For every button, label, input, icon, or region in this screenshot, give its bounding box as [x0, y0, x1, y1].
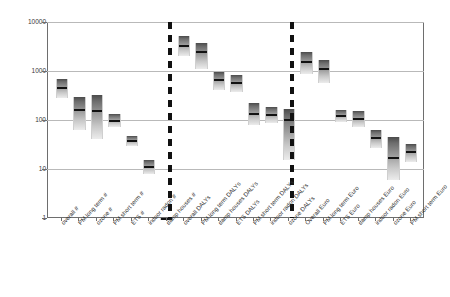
median-line	[109, 120, 119, 122]
median-line	[336, 115, 346, 117]
y-tick-label-10: 10	[0, 166, 46, 173]
median-line	[301, 61, 311, 63]
y-tick-label-1: 1	[0, 215, 46, 222]
y-tick-10	[42, 169, 47, 170]
bar-pm-long-term-	[73, 97, 85, 131]
bar-ets-dalys	[230, 75, 242, 91]
bar-indoor-radon-	[143, 160, 155, 173]
gridline-100	[47, 120, 424, 121]
x-tick	[253, 217, 254, 221]
x-tick	[393, 217, 394, 221]
median-line	[196, 51, 206, 53]
bar-overall-euro	[300, 52, 312, 74]
x-tick	[96, 217, 97, 221]
y-tick-label-10000: 10000	[0, 19, 46, 26]
y-tick-label-1000: 1000	[0, 68, 46, 75]
x-tick	[148, 217, 149, 221]
bar-pm-short-term-euro	[405, 144, 417, 162]
median-line	[406, 151, 416, 153]
gridline-10000	[47, 22, 424, 23]
plot-area	[47, 22, 424, 218]
gridline-10	[47, 169, 424, 170]
x-tick	[113, 217, 114, 221]
y-tick-100	[42, 120, 47, 121]
x-tick	[131, 217, 132, 221]
x-tick	[166, 217, 167, 221]
x-tick	[218, 217, 219, 221]
x-tick	[201, 217, 202, 221]
median-line	[161, 218, 171, 220]
bar-ets-	[126, 136, 138, 146]
bar-damp-houses-	[160, 218, 172, 220]
x-tick	[61, 217, 62, 221]
group-separator-1	[168, 22, 172, 218]
median-line	[57, 87, 67, 89]
group-separator-2	[290, 22, 294, 218]
median-line	[92, 110, 102, 112]
median-line	[266, 114, 276, 116]
bar-damp-houses-euro	[352, 111, 364, 127]
bar-pm-long-term-euro	[318, 60, 330, 84]
median-line	[231, 82, 241, 84]
bar-indoor-radon-euro	[370, 130, 382, 148]
gridline-1000	[47, 71, 424, 72]
bar-overall-dalys	[178, 36, 190, 56]
bar-indoor-radon-dalys	[265, 107, 277, 122]
bar-pm-short-term-	[108, 114, 120, 127]
x-tick	[410, 217, 411, 221]
median-line	[127, 140, 137, 142]
x-tick	[305, 217, 306, 221]
median-line	[371, 137, 381, 139]
y-tick-1	[42, 218, 47, 219]
bar-pm-long-term-dalys	[195, 43, 207, 69]
bar-overall-	[56, 79, 68, 98]
y-tick-10000	[42, 22, 47, 23]
x-tick	[340, 217, 341, 221]
bar-damp-houses-dalys	[213, 72, 225, 90]
median-line	[179, 45, 189, 47]
bar-ets-euro	[335, 110, 347, 122]
median-line	[353, 118, 363, 120]
x-tick	[236, 217, 237, 221]
median-line	[214, 79, 224, 81]
median-line	[144, 166, 154, 168]
x-tick	[288, 217, 289, 221]
x-tick	[183, 217, 184, 221]
x-tick	[270, 217, 271, 221]
y-tick-label-100: 100	[0, 117, 46, 124]
median-line	[319, 68, 329, 70]
median-line	[388, 157, 398, 159]
chart-figure: 110100100010000 overall #PM long term #o…	[0, 0, 450, 297]
bar-pm-short-term-dalys	[248, 103, 260, 125]
bar-ozone-euro	[387, 137, 399, 180]
bar-ozone-	[91, 95, 103, 140]
y-tick-1000	[42, 71, 47, 72]
x-tick	[78, 217, 79, 221]
median-line	[249, 113, 259, 115]
x-tick	[358, 217, 359, 221]
median-line	[74, 109, 84, 111]
x-tick	[323, 217, 324, 221]
x-tick	[375, 217, 376, 221]
